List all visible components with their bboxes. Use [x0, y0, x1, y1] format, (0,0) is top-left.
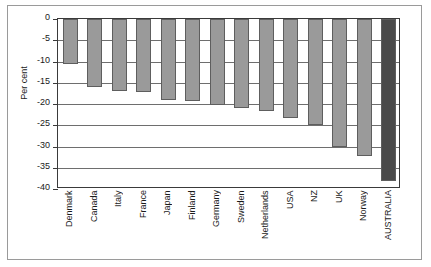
x-axis-tick-label: Italy — [113, 190, 124, 262]
plot-area — [57, 18, 400, 188]
bar — [136, 19, 151, 92]
bar — [308, 19, 323, 125]
x-axis-tick-label: Norway — [358, 190, 369, 262]
y-axis-tick-label: -25 — [37, 119, 50, 128]
x-axis-tick-label: France — [138, 190, 149, 262]
y-axis-tick-label: -40 — [37, 183, 50, 192]
bar — [259, 19, 274, 111]
x-axis-tick-label: NZ — [309, 190, 320, 262]
y-axis-tick — [53, 19, 58, 20]
y-axis-tick-label: -30 — [37, 141, 50, 150]
y-axis-tick-label: -15 — [37, 77, 50, 86]
y-axis-tick — [53, 168, 58, 169]
x-axis-tick-label: Netherlands — [260, 190, 271, 262]
bar — [381, 19, 396, 181]
bar — [112, 19, 127, 91]
y-axis-title: Per cent — [19, 43, 29, 123]
y-axis-tick — [53, 125, 58, 126]
bar — [283, 19, 298, 118]
gridline — [58, 104, 399, 105]
y-axis-tick-label: -5 — [42, 34, 50, 43]
y-axis-tick — [53, 104, 58, 105]
bar — [161, 19, 176, 100]
y-axis-tick-label: -35 — [37, 162, 50, 171]
x-axis-tick-label: AUSTRALIA — [383, 190, 394, 262]
y-axis-tick — [53, 147, 58, 148]
y-axis-tick-labels: 0-5-10-15-20-25-30-35-40 — [22, 0, 50, 267]
y-axis-tick — [53, 62, 58, 63]
x-axis-tick-label: Sweden — [236, 190, 247, 262]
x-axis-tick-label: Japan — [162, 190, 173, 262]
y-axis-tick-label: -20 — [37, 98, 50, 107]
bar — [210, 19, 225, 105]
bar — [332, 19, 347, 147]
x-axis-tick-label: UK — [334, 190, 345, 262]
gridline — [58, 83, 399, 84]
bar — [357, 19, 372, 156]
x-axis-tick-label: Denmark — [64, 190, 75, 262]
bar — [87, 19, 102, 87]
y-axis-tick — [53, 83, 58, 84]
gridline — [58, 125, 399, 126]
gridline — [58, 62, 399, 63]
bar — [185, 19, 200, 101]
chart-figure: 0-5-10-15-20-25-30-35-40 Per cent Denmar… — [0, 0, 431, 267]
gridline — [58, 168, 399, 169]
x-axis-tick-label: USA — [285, 190, 296, 262]
x-axis-tick-label: Finland — [187, 190, 198, 262]
y-axis-tick — [53, 40, 58, 41]
bar — [234, 19, 249, 108]
y-axis-tick-label: 0 — [45, 13, 50, 22]
y-axis-tick-label: -10 — [37, 56, 50, 65]
bar — [63, 19, 78, 64]
gridline — [58, 147, 399, 148]
gridline — [58, 40, 399, 41]
x-axis-tick-label: Canada — [89, 190, 100, 262]
x-axis-tick-labels: DenmarkCanadaItalyFranceJapanFinlandGerm… — [57, 190, 400, 265]
x-axis-tick-label: Germany — [211, 190, 222, 262]
